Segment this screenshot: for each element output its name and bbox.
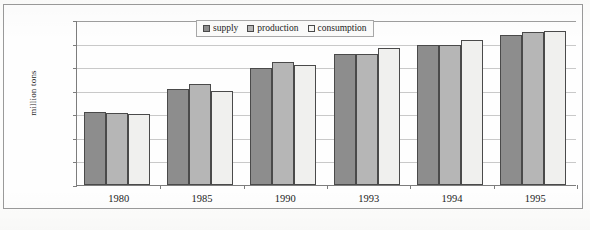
- bar-group: [84, 21, 150, 185]
- bar-group: [250, 21, 316, 185]
- bar-supply-1993: [334, 54, 356, 185]
- bar-production-1995: [522, 32, 544, 185]
- bar-production-1990: [272, 62, 294, 185]
- bar-group: [334, 21, 400, 185]
- x-tick-mark: [160, 185, 161, 189]
- bar-supply-1990: [250, 68, 272, 185]
- bar-supply-1995: [500, 35, 522, 185]
- bar-group: [500, 21, 566, 185]
- legend-item-production: production: [247, 23, 298, 33]
- bar-consumption-1980: [128, 114, 150, 185]
- legend-swatch-icon-consumption: [308, 25, 315, 32]
- bar-group: [167, 21, 233, 185]
- bar-production-1993: [356, 54, 378, 185]
- bar-production-1980: [106, 113, 128, 185]
- y-tick-mark: [73, 186, 77, 187]
- x-tick-mark: [410, 185, 411, 189]
- legend-label: consumption: [318, 23, 367, 33]
- chart-legend: supplyproductionconsumption: [196, 20, 374, 37]
- bar-supply-1980: [84, 112, 106, 185]
- bar-supply-1985: [167, 89, 189, 185]
- x-tick-mark: [327, 185, 328, 189]
- x-tick-mark: [244, 185, 245, 189]
- x-tick-label-1995: 1995: [495, 193, 575, 204]
- x-tick-mark: [494, 185, 495, 189]
- bar-consumption-1985: [211, 91, 233, 185]
- bar-chart-figure: million tons 02004006008001 0001 2001 40…: [0, 0, 590, 230]
- bar-consumption-1994: [461, 40, 483, 185]
- x-tick-label-1990: 1990: [245, 193, 325, 204]
- legend-item-supply: supply: [203, 23, 238, 33]
- legend-swatch-icon-production: [247, 25, 254, 32]
- x-tick-label-1994: 1994: [412, 193, 492, 204]
- bar-supply-1994: [417, 45, 439, 185]
- bar-consumption-1990: [294, 65, 316, 185]
- bar-groups: [77, 21, 576, 185]
- bar-consumption-1993: [378, 48, 400, 185]
- bar-group: [417, 21, 483, 185]
- legend-label: supply: [213, 23, 238, 33]
- legend-label: production: [257, 23, 298, 33]
- x-tick-mark: [577, 185, 578, 189]
- bar-consumption-1995: [544, 31, 566, 185]
- x-tick-label-1980: 1980: [79, 193, 159, 204]
- bar-production-1985: [189, 84, 211, 185]
- legend-swatch-icon-supply: [203, 25, 210, 32]
- x-tick-label-1985: 1985: [162, 193, 242, 204]
- plot-area: 02004006008001 0001 2001 400 19801985199…: [76, 21, 576, 186]
- x-tick-label-1993: 1993: [329, 193, 409, 204]
- y-axis-label: million tons: [28, 38, 38, 148]
- legend-item-consumption: consumption: [308, 23, 367, 33]
- bar-production-1994: [439, 45, 461, 185]
